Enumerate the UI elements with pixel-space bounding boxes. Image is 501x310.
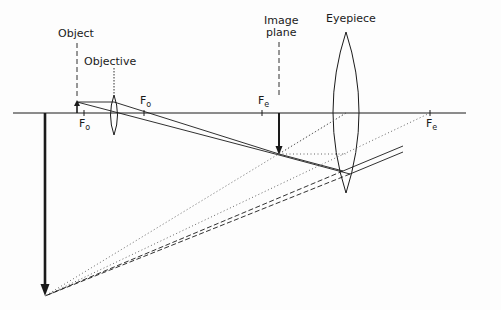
- objective-right-focal-label: Fo: [140, 94, 151, 109]
- construction-dotted-center: [45, 113, 346, 296]
- eyepiece-label: Eyepiece: [326, 13, 376, 25]
- compound-microscope-diagram: Object Objective Image plane Eyepiece Fo…: [0, 0, 501, 310]
- image-plane-label-line2: plane: [264, 27, 298, 39]
- objective-lens: [111, 95, 118, 135]
- ray-to-eyepiece-a: [279, 154, 343, 171]
- object-label: Object: [58, 28, 94, 40]
- eyepiece-right-focal-label: Fe: [426, 117, 437, 132]
- backprojection-dashed-b: [45, 174, 350, 296]
- emerging-ray-a: [343, 146, 403, 171]
- objective-left-focal-label: Fo: [79, 117, 90, 132]
- ray-to-eyepiece-b: [279, 155, 350, 174]
- image-plane-label: Image plane: [264, 15, 298, 39]
- ray-diagram: [0, 0, 501, 310]
- emerging-ray-b: [350, 152, 403, 174]
- backprojection-dashed-a: [45, 171, 343, 296]
- ray-objective-center: [77, 102, 279, 155]
- eyepiece-left-focal-label: Fe: [258, 94, 269, 109]
- ray-objective-focal: [114, 102, 279, 154]
- objective-label: Objective: [84, 56, 136, 68]
